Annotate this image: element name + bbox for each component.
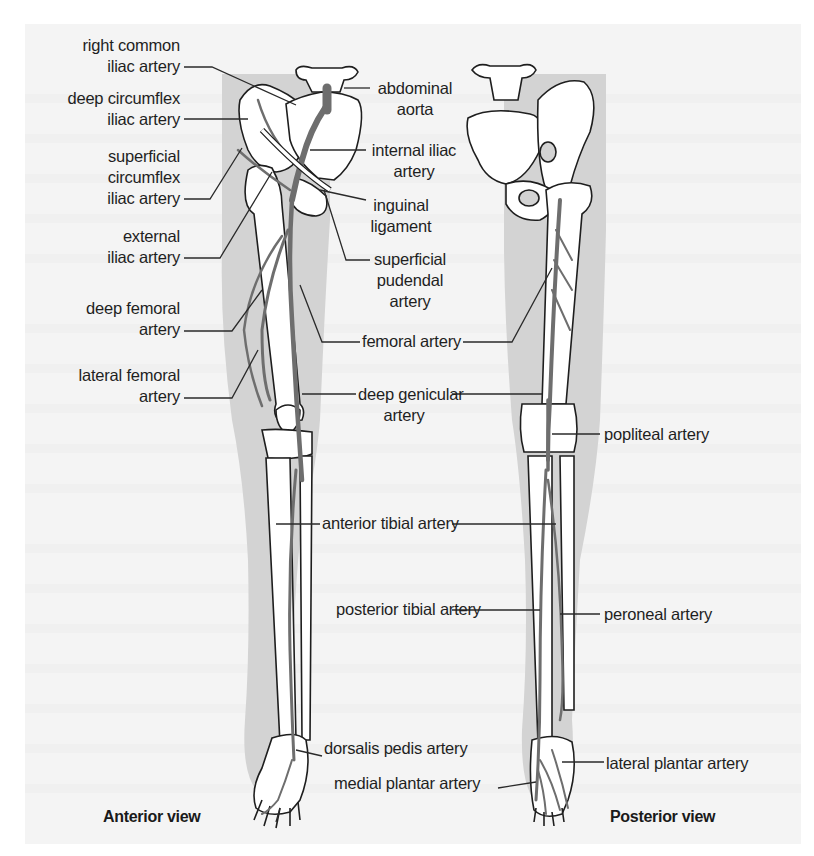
label-lateral-plantar-artery: lateral plantar artery bbox=[606, 753, 748, 774]
label-superficial-circumflex-iliac-artery: superficial circumflex iliac artery bbox=[30, 146, 180, 209]
label-deep-femoral-artery: deep femoral artery bbox=[30, 298, 180, 340]
label-inguinal-ligament: inguinal ligament bbox=[366, 195, 436, 237]
label-deep-circumflex-iliac-artery: deep circumflex iliac artery bbox=[30, 88, 180, 130]
label-right-common-iliac-artery: right common iliac artery bbox=[30, 35, 180, 77]
label-femoral-artery: femoral artery bbox=[362, 331, 461, 352]
label-dorsalis-pedis-artery: dorsalis pedis artery bbox=[324, 738, 467, 759]
label-popliteal-artery: popliteal artery bbox=[604, 424, 709, 445]
caption-anterior-view: Anterior view bbox=[103, 808, 200, 826]
label-peroneal-artery: peroneal artery bbox=[604, 604, 712, 625]
label-superficial-pudendal-artery: superficial pudendal artery bbox=[370, 249, 450, 312]
label-internal-iliac-artery: internal iliac artery bbox=[362, 140, 466, 182]
label-abdominal-aorta: abdominal aorta bbox=[368, 78, 462, 120]
figure-page: right common iliac artery deep circumfle… bbox=[0, 0, 814, 856]
caption-posterior-view: Posterior view bbox=[610, 808, 715, 826]
label-lateral-femoral-artery: lateral femoral artery bbox=[30, 365, 180, 407]
label-deep-genicular-artery: deep genicular artery bbox=[358, 384, 450, 426]
label-anterior-tibial-artery: anterior tibial artery bbox=[322, 513, 459, 534]
label-posterior-tibial-artery: posterior tibial artery bbox=[336, 599, 481, 620]
label-medial-plantar-artery: medial plantar artery bbox=[334, 773, 480, 794]
label-external-iliac-artery: external iliac artery bbox=[30, 226, 180, 268]
fibula bbox=[300, 456, 312, 740]
tibia-head bbox=[262, 429, 312, 458]
